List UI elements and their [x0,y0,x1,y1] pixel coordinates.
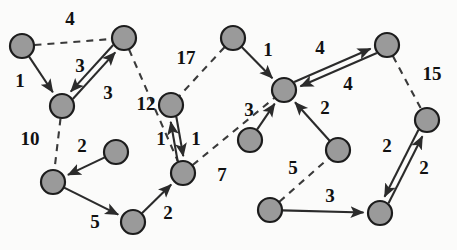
graph-node[interactable] [221,26,245,50]
edge-weight-label: 2 [419,157,429,178]
graph-node[interactable] [41,170,65,194]
edge-weight-label: 2 [382,135,392,156]
graph-edge [54,118,60,169]
graph-node[interactable] [415,108,439,132]
edge-weight-label: 1 [15,70,25,91]
graph-node[interactable] [159,93,183,117]
edge-weight-label: 17 [177,47,197,68]
graph-node[interactable] [238,128,262,152]
edge-weight-label: 12 [137,93,156,114]
graph-node[interactable] [272,78,296,102]
edge-weight-label: 4 [343,73,353,94]
graph-edge [388,136,422,203]
edge-weight-label: 3 [75,55,85,76]
edge-weight-label: 2 [77,135,87,156]
edge-weight-label: 3 [325,185,335,206]
edge-weight-label: 15 [423,63,442,84]
edge-weight-label: 5 [90,211,100,232]
graph-node[interactable] [104,140,128,164]
graph-node[interactable] [171,161,195,185]
graph-node[interactable] [258,198,282,222]
graph-node[interactable] [368,201,392,225]
graph-edge [294,49,370,82]
edge-weight-label: 5 [288,157,298,178]
edge-weight-label: 4 [315,37,325,58]
graph-edge [393,56,421,109]
graph-node[interactable] [121,210,145,234]
graph-edge [176,117,183,156]
graph-edge [257,104,275,130]
graph-node[interactable] [375,33,399,57]
graph-edge [279,158,328,201]
edge-weight-label: 2 [320,97,330,118]
graph-node[interactable] [10,34,34,58]
edge-weight-label: 3 [244,99,254,120]
graph-canvas: 413312102521117174415325322 [0,0,457,250]
graph-node[interactable] [326,138,350,162]
edge-weight-label: 1 [156,128,166,149]
graph-node[interactable] [50,94,74,118]
graph-edge [29,56,53,92]
edge-weight-label: 2 [163,202,173,223]
edge-weight-label: 1 [191,128,201,149]
edge-weight-label: 10 [21,128,40,149]
edge-weight-label: 7 [217,164,227,185]
edge-weight-label: 1 [263,39,273,60]
graph-edge [171,122,178,161]
graph-edge [300,53,376,86]
graph-figure: 413312102521117174415325322 [0,0,457,250]
graph-node[interactable] [112,26,136,50]
edges-layer [29,39,422,215]
graph-edge [68,157,105,175]
graph-edge [34,39,111,45]
graph-edge [193,98,275,165]
edge-weight-label: 3 [103,82,113,103]
graph-edge [283,210,364,212]
edge-weight-label: 4 [65,8,75,29]
